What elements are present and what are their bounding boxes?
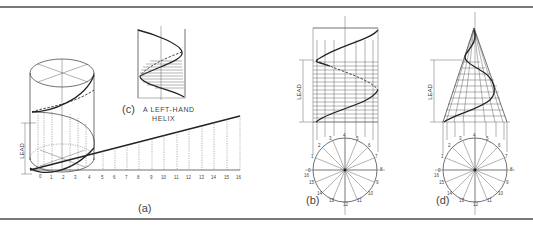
svg-text:12: 12 [473, 202, 479, 207]
svg-text:10: 10 [498, 191, 504, 196]
panel-c-caption-text: A LEFT-HAND [143, 106, 195, 113]
svg-text:11: 11 [174, 175, 179, 180]
panel-b-helix-construction: LEAD 0 1 2 3 4 5 6 7 8 9 10 11 [296, 16, 385, 215]
svg-text:6: 6 [368, 143, 371, 148]
svg-text:16: 16 [304, 173, 310, 178]
development-number-scale: 0 1 2 3 4 5 6 7 8 9 10 11 12 13 14 15 16 [39, 174, 242, 180]
development-hypotenuse [30, 116, 240, 170]
svg-text:4: 4 [88, 175, 91, 180]
panel-c-left-hand-helix: (c) A LEFT-HAND HELIX [122, 26, 195, 122]
svg-text:2: 2 [448, 143, 451, 148]
svg-text:16: 16 [434, 173, 440, 178]
panel-a-cylinder-helix: LEAD 0 1 2 3 4 5 6 7 8 [19, 59, 242, 214]
panel-d-conical-helix: LEAD 0 1 2 3 4 5 6 7 8 9 10 11 [427, 12, 515, 215]
svg-text:1: 1 [441, 154, 444, 159]
svg-text:8: 8 [137, 175, 140, 180]
svg-text:2: 2 [318, 143, 321, 148]
svg-text:5: 5 [486, 136, 489, 141]
svg-text:13: 13 [459, 198, 465, 203]
helix-construction-figure: LEAD 0 1 2 3 4 5 6 7 8 [0, 0, 533, 227]
svg-text:13: 13 [329, 198, 335, 203]
svg-text:3: 3 [329, 136, 332, 141]
panel-c-caption: (c) [122, 103, 135, 115]
svg-text:7: 7 [505, 154, 508, 159]
svg-text:2: 2 [62, 175, 65, 180]
panel-d-lead-label: LEAD [427, 84, 433, 100]
panel-d-caption: (d) [436, 194, 449, 206]
panel-b-caption: (b) [306, 194, 319, 206]
panel-b-lead-label: LEAD [296, 84, 302, 100]
svg-text:4: 4 [473, 133, 476, 138]
svg-text:15: 15 [439, 180, 445, 185]
svg-text:13: 13 [199, 175, 205, 180]
svg-text:1: 1 [50, 175, 53, 180]
helix-curve-front-upper [32, 75, 94, 112]
svg-text:5: 5 [101, 175, 104, 180]
svg-text:9: 9 [506, 180, 509, 185]
svg-text:16: 16 [236, 175, 242, 180]
svg-text:15: 15 [224, 175, 230, 180]
svg-text:11: 11 [487, 198, 492, 203]
helix-curve-back [32, 112, 94, 148]
svg-text:5: 5 [356, 136, 359, 141]
svg-text:10: 10 [161, 175, 167, 180]
svg-text:14: 14 [211, 175, 217, 180]
panel-a-caption: (a) [138, 202, 151, 214]
svg-text:15: 15 [309, 180, 315, 185]
svg-text:9: 9 [150, 175, 153, 180]
panel-c-caption-text-2: HELIX [152, 115, 175, 122]
svg-text:10: 10 [368, 191, 374, 196]
svg-text:0: 0 [39, 174, 42, 179]
svg-text:11: 11 [357, 198, 362, 203]
svg-text:1: 1 [311, 154, 314, 159]
panel-a-lead-label: LEAD [19, 143, 25, 159]
svg-text:3: 3 [74, 175, 77, 180]
svg-text:12: 12 [343, 202, 349, 207]
svg-text:4: 4 [343, 133, 346, 138]
svg-text:8: 8 [510, 167, 513, 172]
svg-text:9: 9 [376, 180, 379, 185]
svg-text:8: 8 [380, 167, 383, 172]
svg-text:7: 7 [125, 175, 128, 180]
svg-text:3: 3 [459, 136, 462, 141]
svg-text:6: 6 [113, 175, 116, 180]
svg-text:7: 7 [375, 154, 378, 159]
svg-text:12: 12 [186, 175, 192, 180]
svg-text:6: 6 [498, 143, 501, 148]
